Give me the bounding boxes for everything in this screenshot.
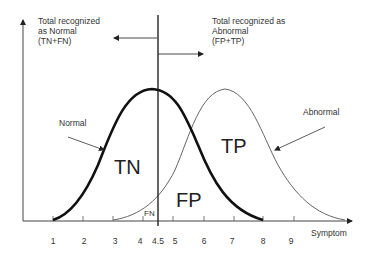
right-annotation-line3: (FP+TP) [212,36,285,46]
left-annotation-line2: as Normal [38,26,100,36]
normal-pointer-arrow [68,137,104,150]
tick-label-6: 6 [202,236,207,246]
fp-label: FP [176,190,202,210]
tp-label: TP [221,136,247,156]
tick-label-1: 1 [51,236,56,246]
normal-label: Normal [59,118,86,128]
left-annotation: Total recognized as Normal (TN+FN) [38,16,100,46]
tick-label-4: 4 [138,236,143,246]
tick-label-5: 5 [173,236,178,246]
tick-label-8: 8 [261,236,266,246]
tick-label-2: 2 [82,236,87,246]
left-annotation-line1: Total recognized [38,16,100,26]
tn-label: TN [114,157,141,177]
right-annotation-line1: Total recognized as [212,16,285,26]
abnormal-pointer-arrow [275,127,325,150]
fn-label: FN [144,209,155,219]
tick-label-9: 9 [289,236,294,246]
tick-label-7: 7 [230,236,235,246]
right-annotation: Total recognized as Abnormal (FP+TP) [212,16,285,46]
abnormal-label: Abnormal [303,107,339,117]
tick-label-3: 3 [113,236,118,246]
right-annotation-line2: Abnormal [212,26,285,36]
tick-label-4-5: 4.5 [152,236,164,246]
left-annotation-line3: (TN+FN) [38,36,100,46]
x-axis-label: Symptom [311,228,347,238]
